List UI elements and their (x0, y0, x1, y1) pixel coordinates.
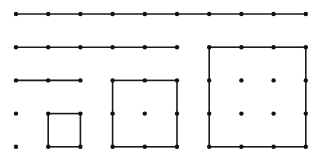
square-side-3-dot (271, 45, 275, 49)
square-side-1-outline (48, 114, 80, 147)
square-side-3-dot (207, 145, 211, 149)
square-side-2-dot (175, 111, 179, 115)
square-side-3-dot (304, 45, 308, 49)
square-side-2-dot (143, 111, 147, 115)
square-side-3-dot (271, 111, 275, 115)
square-side-2-dot (175, 145, 179, 149)
square-side-3-dot (207, 45, 211, 49)
square-side-3-dot (271, 145, 275, 149)
row-6-points-dot (46, 45, 50, 49)
square-side-3-dot (239, 45, 243, 49)
row-10-points-dot (175, 12, 179, 16)
square-side-1-dot (78, 111, 82, 115)
row-3-points-dot (78, 78, 82, 82)
row-10-points-dot (143, 12, 147, 16)
square-side-3-dot (239, 111, 243, 115)
row-6-points-dot (14, 45, 18, 49)
row-10-points-dot (46, 12, 50, 16)
row-10-points-dot (239, 12, 243, 16)
square-side-3-dot (304, 145, 308, 149)
dot-lattice-diagram (0, 0, 324, 156)
square-side-1-dot (46, 111, 50, 115)
row-6-points-dot (78, 45, 82, 49)
square-side-1-dot (78, 145, 82, 149)
row-10-points-dot (304, 12, 308, 16)
square-side-2-dot (143, 78, 147, 82)
single-dot (14, 111, 18, 115)
square-side-3-dot (304, 111, 308, 115)
row-10-points-dot (110, 12, 114, 16)
square-side-3-dot (239, 78, 243, 82)
row-10-points-dot (14, 12, 18, 16)
square-side-3-dot (271, 78, 275, 82)
row-10-points-dot (271, 12, 275, 16)
square-side-2-dot (110, 78, 114, 82)
row-10-points-dot (207, 12, 211, 16)
square-side-3-dot (207, 111, 211, 115)
square-side-1-dot (46, 145, 50, 149)
square-side-2-dot (175, 78, 179, 82)
row-3-points-dot (14, 78, 18, 82)
square-side-2-dot (110, 111, 114, 115)
row-3-points-dot (46, 78, 50, 82)
row-6-points-dot (143, 45, 147, 49)
square-side-2-dot (143, 145, 147, 149)
row-6-points-dot (110, 45, 114, 49)
row-10-points-dot (78, 12, 82, 16)
square-side-3-dot (207, 78, 211, 82)
square-side-3-dot (304, 78, 308, 82)
square-side-3-outline (209, 47, 306, 147)
square-side-3-dot (239, 145, 243, 149)
single-dot (14, 145, 18, 149)
square-side-2-dot (110, 145, 114, 149)
row-6-points-dot (175, 45, 179, 49)
